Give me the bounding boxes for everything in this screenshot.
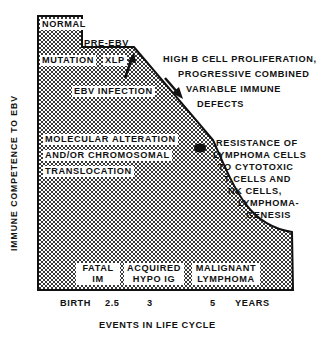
resistance-note-6: LYMPHOMA- bbox=[238, 198, 299, 209]
proliferation-note-3: VARIABLE IMMUNE bbox=[186, 84, 281, 95]
x-tick-birth: BIRTH bbox=[60, 298, 91, 309]
outcome-fatal-im: FATAL IM bbox=[76, 263, 120, 285]
resistance-note-7: GENESIS bbox=[246, 210, 291, 221]
stage-molecular-3: TRANSLOCATION bbox=[43, 166, 134, 177]
x-axis-label: EVENTS IN LIFE CYCLE bbox=[99, 320, 216, 331]
stage-pre-ebv: PRE-EBV bbox=[84, 38, 129, 49]
x-tick-3: 3 bbox=[147, 298, 153, 309]
resistance-note-5: NK CELLS, bbox=[228, 186, 282, 197]
resistance-note-3: TO CYTOTOXIC bbox=[218, 162, 294, 173]
stage-normal: NORMAL bbox=[40, 19, 88, 30]
stage-molecular-2: AND/OR CHROMOSOMAL bbox=[43, 150, 172, 161]
proliferation-note-2: PROGRESSIVE COMBINED bbox=[178, 69, 309, 80]
resistance-note-2: LYMPHOMA CELLS bbox=[213, 150, 306, 161]
outcome-malignant-lymphoma: MALIGNANT LYMPHOMA bbox=[192, 263, 260, 285]
y-axis-label: IMMUNE COMPETENCE TO EBV bbox=[9, 95, 19, 251]
resistance-note-1: RESISTANCE OF bbox=[216, 138, 298, 149]
x-tick-years: YEARS bbox=[235, 298, 270, 309]
resistance-marker-icon bbox=[194, 144, 206, 153]
stage-xlp: XLP bbox=[103, 55, 127, 66]
proliferation-note-4: DEFECTS bbox=[197, 99, 244, 110]
stage-molecular-1: MOLECULAR ALTERATION bbox=[43, 134, 178, 145]
stage-ebv-infection: EBV INFECTION bbox=[72, 86, 155, 97]
resistance-note-4: T CELLS AND bbox=[224, 174, 291, 185]
stage-mutation: MUTATION bbox=[40, 55, 96, 66]
outcome-acquired-hypo-ig: ACQUIRED HYPO IG bbox=[124, 263, 184, 285]
proliferation-note-1: HIGH B CELL PROLIFERATION, bbox=[163, 54, 317, 65]
x-tick-2-5: 2.5 bbox=[105, 298, 120, 309]
x-tick-5: 5 bbox=[210, 298, 216, 309]
